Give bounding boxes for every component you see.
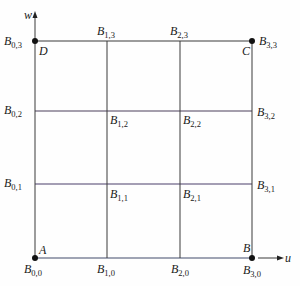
corner-point-D	[32, 38, 38, 44]
point-label-b01: B0,1	[4, 177, 22, 192]
point-label-b31: B3,1	[257, 179, 275, 194]
point-label-b33: B3,3	[259, 35, 277, 50]
corner-label-B: B	[243, 242, 250, 254]
point-label-b03: B0,3	[4, 35, 22, 50]
point-label-b21: B2,1	[183, 188, 201, 203]
point-label-b22: B2,2	[183, 114, 201, 129]
point-label-b10: B1,0	[97, 263, 115, 278]
point-label-b32: B3,2	[257, 106, 275, 121]
point-label-b20: B2,0	[171, 263, 189, 278]
point-label-b00: B0,0	[24, 263, 42, 278]
corner-label-D: D	[39, 45, 48, 57]
point-label-b02: B0,2	[4, 104, 22, 119]
axis-label-w: w	[24, 9, 32, 21]
bezier-patch-diagram: w u D C A B B0,3 B1,3 B2,3 B3,3 B0,2 B1,…	[0, 0, 300, 286]
point-label-b30: B3,0	[243, 264, 261, 279]
u-axis-arrow-icon	[277, 256, 284, 261]
corner-label-A: A	[39, 244, 46, 256]
corner-point-B	[249, 255, 255, 261]
w-axis-arrow-icon	[33, 11, 38, 18]
point-label-b11: B1,1	[110, 188, 128, 203]
axis-label-u: u	[285, 252, 291, 264]
corner-point-A	[32, 255, 38, 261]
point-label-b13: B1,3	[97, 25, 115, 40]
point-label-b12: B1,2	[110, 114, 128, 129]
corner-label-C: C	[242, 45, 250, 57]
point-label-b23: B2,3	[170, 25, 188, 40]
